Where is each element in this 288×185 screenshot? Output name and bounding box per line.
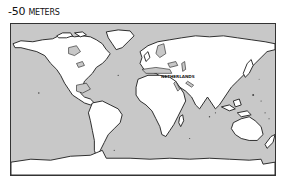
- caspian-sea: [182, 62, 186, 72]
- south-america: [88, 101, 122, 156]
- sea-level-value: 50: [12, 5, 26, 18]
- world-map: NETHERLANDS: [10, 23, 276, 176]
- arctic-islands: [57, 33, 73, 38]
- australia: [231, 117, 263, 141]
- new-zealand: [265, 135, 275, 149]
- sea-level-caption: -50 METERS: [8, 6, 60, 19]
- map-label-netherlands: NETHERLANDS: [161, 74, 195, 79]
- madagascar: [179, 115, 184, 127]
- indonesia: [221, 105, 235, 111]
- antarctica: [11, 150, 275, 175]
- gulf-of-mexico: [77, 83, 91, 93]
- north-america: [13, 35, 110, 105]
- world-map-svg: [11, 24, 275, 175]
- africa: [136, 75, 186, 136]
- greenland: [106, 30, 134, 50]
- sea-level-unit: METERS: [28, 8, 59, 17]
